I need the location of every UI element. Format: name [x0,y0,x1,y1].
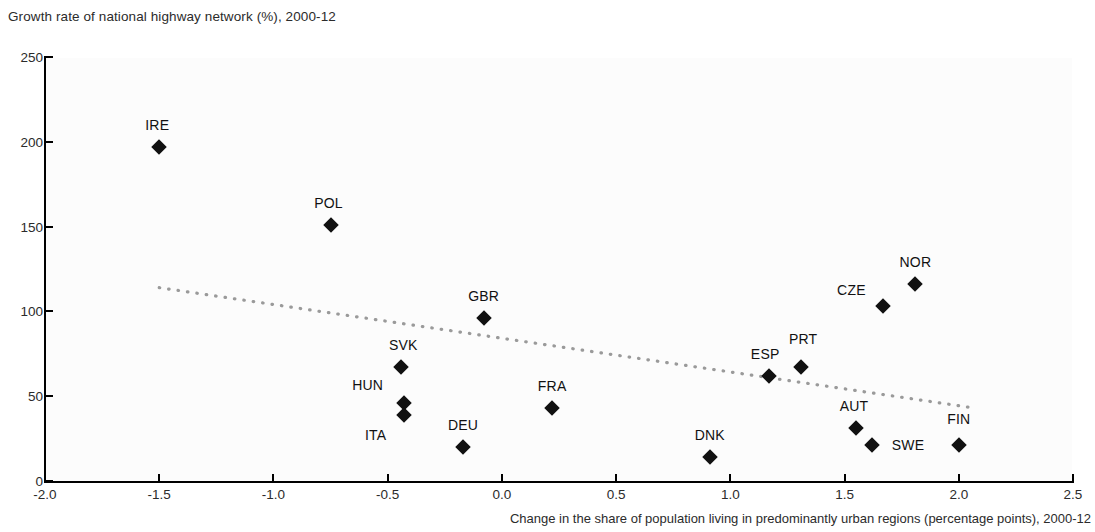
data-point-marker [876,299,892,315]
x-tick-label: -0.5 [376,487,399,502]
data-point-label: DEU [448,417,478,433]
data-point-label: GBR [468,288,499,304]
y-tick-label: 100 [20,304,43,319]
x-tick [501,474,503,481]
data-point-label: FIN [947,411,970,427]
data-point-label: PRT [789,331,817,347]
data-point-label: NOR [900,254,932,270]
y-tick-label: 200 [20,134,43,149]
x-tick [272,474,274,481]
y-axis-line [44,56,46,483]
data-point-label: DNK [695,427,725,443]
x-tick-label: -1.0 [262,487,285,502]
x-tick-label: 2.5 [1064,487,1083,502]
data-point-marker [396,407,412,423]
data-point-marker [793,360,809,376]
data-point-marker [908,276,924,292]
y-tick [46,480,53,482]
x-tick [844,474,846,481]
data-point-marker [455,439,471,455]
y-tick [46,395,53,397]
y-tick [46,141,53,143]
y-tick-label: 50 [28,389,43,404]
data-point-label: SWE [892,437,925,453]
data-point-marker [394,360,410,376]
y-tick-label: 250 [20,50,43,65]
x-tick-label: 0.0 [492,487,511,502]
x-tick [387,474,389,481]
x-tick-label: 1.5 [835,487,854,502]
data-point-label: SVK [389,337,418,353]
data-point-marker [151,139,167,155]
y-tick [46,310,53,312]
data-point-marker [702,449,718,465]
data-point-label: ITA [365,427,386,443]
x-axis-title: Change in the share of population living… [510,511,1091,526]
x-tick [958,474,960,481]
x-tick [1072,474,1074,481]
y-tick [46,56,53,58]
data-point-marker [951,438,967,454]
data-point-label: HUN [352,377,383,393]
data-point-label: IRE [145,117,169,133]
x-axis-line [44,481,1074,483]
y-tick-label: 150 [20,219,43,234]
x-tick-label: 1.0 [721,487,740,502]
x-tick-label: 0.5 [607,487,626,502]
data-point-marker [848,421,864,437]
x-tick-label: -2.0 [33,487,56,502]
x-tick [615,474,617,481]
chart-title: Growth rate of national highway network … [8,9,336,24]
data-point-marker [864,438,880,454]
x-tick-label: -1.5 [148,487,171,502]
x-tick-label: 2.0 [949,487,968,502]
data-point-label: CZE [837,282,866,298]
scatter-chart: Growth rate of national highway network … [0,0,1095,532]
x-tick [729,474,731,481]
data-point-label: AUT [840,398,869,414]
data-point-label: ESP [751,346,780,362]
data-point-marker [544,400,560,416]
data-point-marker [761,368,777,384]
data-point-marker [476,310,492,326]
data-point-marker [323,217,339,233]
data-point-label: FRA [538,378,567,394]
x-tick [158,474,160,481]
y-tick [46,226,53,228]
data-point-label: POL [314,195,343,211]
